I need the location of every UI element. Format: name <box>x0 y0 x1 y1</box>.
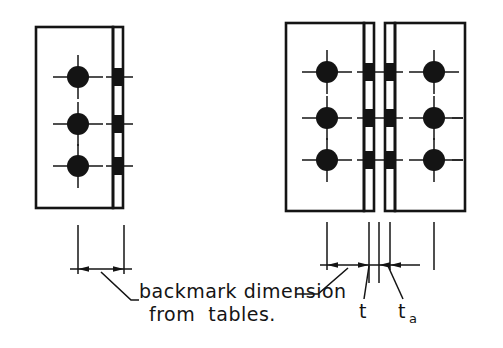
engineering-drawing-canvas: backmark dimension from tables. t t a <box>0 0 503 348</box>
bolt-symbol <box>316 61 338 83</box>
dim-arrow-head <box>358 262 369 268</box>
left-bolt-row-3 <box>53 144 133 188</box>
right-double-angle-detail <box>286 23 465 211</box>
right-bolt-row-2 <box>302 96 463 140</box>
backmark-note-line-2: from tables. <box>149 305 276 324</box>
leader-line <box>101 272 139 300</box>
left-single-angle-detail <box>36 27 133 208</box>
dim-arrow-head <box>327 262 338 268</box>
ta-leader-line <box>388 266 403 299</box>
right-bolt-row-3 <box>302 138 463 182</box>
dim-arrow-head <box>113 266 124 272</box>
angle-thickness-subscript: a <box>409 311 417 326</box>
bolt-symbol <box>316 107 338 129</box>
dim-arrow-head <box>78 266 89 272</box>
left-backmark-dimension <box>70 225 139 300</box>
bolt-symbol <box>423 149 445 171</box>
bolt-symbol <box>423 107 445 129</box>
bolt-symbol <box>423 61 445 83</box>
bolt-symbol <box>67 155 89 177</box>
angle-thickness-label-ta: t <box>398 302 406 321</box>
dim-arrow-head <box>390 262 401 268</box>
right-bolt-row-1 <box>302 50 459 94</box>
bolt-symbol <box>67 66 89 88</box>
bolt-symbol <box>316 149 338 171</box>
left-bolt-row-2 <box>53 102 133 146</box>
bolt-symbol <box>67 113 89 135</box>
thickness-label-t: t <box>359 302 367 321</box>
left-bolt-row-1 <box>53 55 133 99</box>
backmark-note-line-1: backmark dimension <box>139 282 347 301</box>
